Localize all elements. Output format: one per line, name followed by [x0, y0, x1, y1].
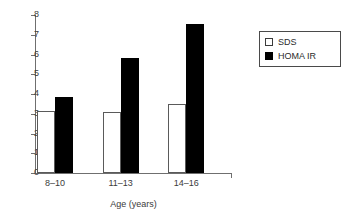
x-axis-line — [35, 173, 232, 174]
bar-sds-1 — [103, 112, 121, 173]
bar-homa-ir-2 — [186, 24, 204, 173]
y-axis-tick-label: 2 — [17, 129, 39, 138]
chart-legend: SDS HOMA IR — [259, 31, 341, 67]
y-axis-tick-label: 6 — [17, 50, 39, 59]
y-axis-tick-label: 5 — [17, 69, 39, 78]
chart-figure: 876543210 8–1011–1314–16 Age (years) SDS… — [0, 0, 349, 217]
bar-homa-ir-1 — [121, 58, 139, 173]
bar-sds-0 — [37, 111, 55, 173]
legend-label-sds: SDS — [278, 38, 297, 47]
x-axis-tick-label: 8–10 — [25, 179, 85, 189]
y-axis-tick-label: 0 — [17, 168, 39, 177]
legend-item-sds: SDS — [265, 36, 335, 48]
y-axis-tick-label: 1 — [17, 148, 39, 157]
y-axis-tick-label: 7 — [17, 30, 39, 39]
y-axis-tick-label: 4 — [17, 89, 39, 98]
x-axis-title: Age (years) — [35, 199, 232, 209]
bar-sds-2 — [168, 104, 186, 173]
y-axis-tick-label: 8 — [17, 10, 39, 19]
bar-homa-ir-0 — [55, 97, 73, 173]
legend-label-homa-ir: HOMA IR — [278, 52, 316, 61]
legend-item-homa-ir: HOMA IR — [265, 50, 335, 62]
x-axis-tick-label: 11–13 — [91, 179, 151, 189]
x-axis-end-tick — [231, 174, 232, 178]
y-axis-tick-label: 3 — [17, 109, 39, 118]
x-axis-tick-label: 14–16 — [156, 179, 216, 189]
open-square-swatch-icon — [265, 38, 273, 46]
filled-square-swatch-icon — [265, 52, 273, 60]
